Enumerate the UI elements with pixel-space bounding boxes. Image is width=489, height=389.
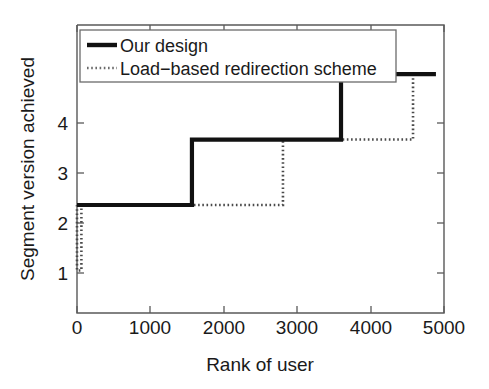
y-axis-tick-labels: 1 2 3 4: [57, 113, 68, 284]
x-tick-label-5000: 5000: [423, 317, 465, 338]
x-tick-label-2000: 2000: [203, 317, 245, 338]
x-axis-tick-labels: 0 1000 2000 3000 4000 5000: [72, 317, 465, 338]
y-tick-label-4: 4: [57, 113, 68, 134]
x-tick-label-3000: 3000: [276, 317, 318, 338]
chart-canvas: 0 1000 2000 3000 4000 5000 1 2 3 4: [0, 0, 489, 389]
series-group: [77, 74, 436, 270]
y-axis-title: Segment version achieved: [17, 57, 38, 281]
series-load-based-redirection-scheme: [77, 74, 436, 270]
x-axis-title: Rank of user: [206, 354, 314, 375]
legend-label-our-design: Our design: [120, 36, 208, 56]
y-tick-label-3: 3: [57, 163, 68, 184]
x-tick-label-4000: 4000: [350, 317, 392, 338]
series-our-design: [77, 74, 436, 205]
chart-figure: 0 1000 2000 3000 4000 5000 1 2 3 4: [0, 0, 489, 389]
y-axis-ticks: [77, 123, 444, 273]
x-tick-label-0: 0: [72, 317, 83, 338]
x-tick-label-1000: 1000: [129, 317, 171, 338]
y-tick-label-1: 1: [57, 263, 68, 284]
legend: Our design Load−based redirection scheme: [80, 30, 396, 82]
y-tick-label-2: 2: [57, 213, 68, 234]
legend-label-load-based-redirection-scheme: Load−based redirection scheme: [120, 59, 377, 79]
